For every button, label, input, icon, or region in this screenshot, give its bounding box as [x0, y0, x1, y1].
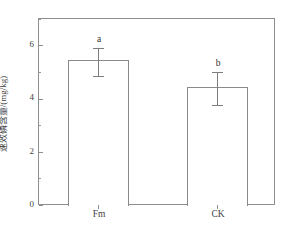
error-bar-cap-bottom-fm: [93, 76, 104, 77]
error-bar-cap-bottom-ck: [212, 105, 223, 106]
y-tick-mark-3: [39, 125, 41, 126]
y-tick-mark-0: [39, 205, 43, 206]
y-tick-mark-2: [39, 152, 43, 153]
y-axis-title-text: 速效磷含量/(mg/kg): [0, 44, 9, 184]
y-tick-label-6: 6: [20, 40, 34, 49]
x-tick-label-ck: CK: [194, 209, 242, 219]
chart-figure: 速效磷含量/(mg/kg) 6 4 2 0 a b: [0, 0, 293, 237]
y-tick-label-0: 0: [20, 200, 34, 209]
y-tick-label-4: 4: [20, 93, 34, 102]
x-tick-label-fm: Fm: [75, 209, 123, 219]
error-bar-stem-ck: [217, 72, 218, 105]
significance-letter-ck: b: [208, 58, 228, 68]
significance-letter-fm: a: [89, 34, 109, 44]
y-tick-mark-7: [39, 19, 41, 20]
y-tick-label-2: 2: [20, 147, 34, 156]
y-tick-mark-1: [39, 178, 41, 179]
error-bar-stem-fm: [98, 48, 99, 76]
error-bar-cap-top-fm: [93, 48, 104, 49]
y-axis-title: 速效磷含量/(mg/kg): [0, 0, 9, 44]
y-tick-mark-4: [39, 99, 43, 100]
y-tick-mark-5: [39, 72, 41, 73]
y-tick-mark-6: [39, 45, 43, 46]
plot-area: a b Fm CK: [38, 18, 275, 205]
error-bar-cap-top-ck: [212, 72, 223, 73]
bar-fm: [68, 60, 129, 206]
